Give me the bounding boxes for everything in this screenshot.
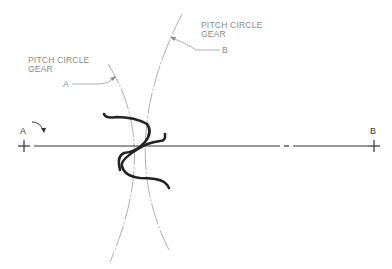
center-b-label: B <box>370 127 376 136</box>
gear-a-callout-id: A <box>63 80 69 89</box>
gear-b-callout-line2: GEAR <box>201 30 262 39</box>
tooth-profile-gear-a <box>104 114 150 170</box>
diagram-graphics <box>0 0 392 269</box>
rotation-arrow-icon <box>32 122 43 130</box>
center-mark-b <box>368 140 380 152</box>
leader-line-b <box>172 38 220 50</box>
leader-line-a <box>72 78 114 84</box>
gear-diagram: PITCH CIRCLE GEAR A PITCH CIRCLE GEAR B … <box>0 0 392 269</box>
gear-a-callout: PITCH CIRCLE GEAR <box>28 56 89 74</box>
gear-b-callout: PITCH CIRCLE GEAR <box>201 21 262 39</box>
center-a-label: A <box>20 127 26 136</box>
gear-a-callout-line2: GEAR <box>28 65 89 74</box>
center-mark-a <box>18 140 30 152</box>
gear-b-callout-id: B <box>222 46 228 55</box>
